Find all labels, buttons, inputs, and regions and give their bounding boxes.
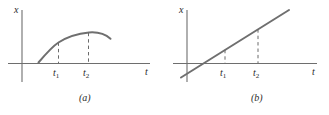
panel-a-x-axis-label: t [145, 67, 148, 77]
panel-a-tick-label-t1: t1 [53, 68, 59, 78]
figure-container: x t t1 t2 (a) x t t1 t2 (b) [0, 0, 329, 115]
panel-a-tick-label-t2: t2 [83, 68, 89, 78]
panel-b-tick-t1-sub: 1 [223, 72, 227, 80]
panel-b-line [181, 10, 289, 78]
panel-b-tick-label-t2: t2 [253, 68, 259, 78]
panel-b-x-axis-label: t [312, 67, 315, 77]
panel-b-tick-t2-sub: 2 [256, 72, 260, 80]
panel-b-plot [165, 0, 329, 115]
panel-a: x t t1 t2 (a) [0, 0, 165, 115]
panel-a-y-axis-label: x [14, 5, 18, 15]
panel-b-tick-label-t1: t1 [220, 68, 226, 78]
panel-b-y-axis-label: x [179, 5, 183, 15]
panel-a-curve [39, 32, 111, 62]
panel-a-tick-t2-sub: 2 [86, 72, 90, 80]
panel-a-caption: (a) [79, 93, 91, 103]
panel-a-tick-t1-sub: 1 [56, 72, 60, 80]
panel-b-caption: (b) [251, 93, 263, 103]
panel-b: x t t1 t2 (b) [165, 0, 329, 115]
